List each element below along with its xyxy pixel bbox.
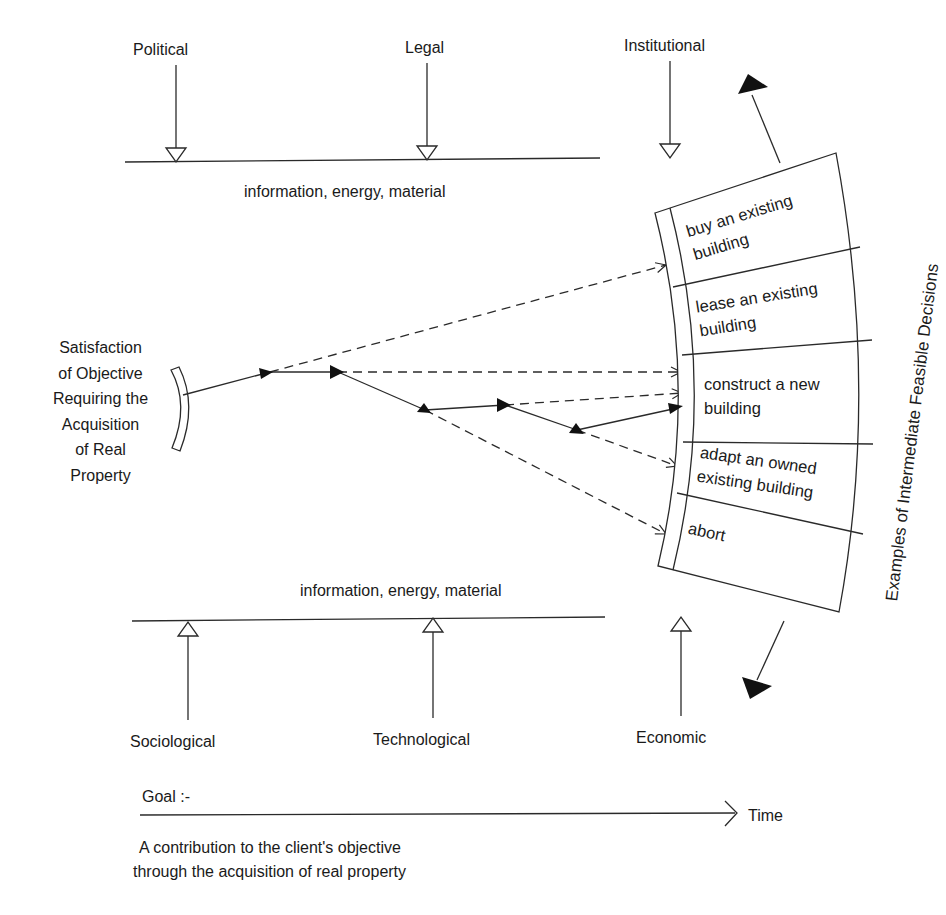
technological-arrow (423, 618, 443, 718)
goal-text-1: A contribution to the client's objective (139, 838, 401, 857)
origin-line: Requiring the (38, 386, 163, 412)
option-paths (270, 265, 682, 534)
institutional-arrow (660, 61, 680, 158)
up-arrow (752, 95, 780, 163)
option-text: construct a new (704, 372, 820, 396)
up-arrow-head-icon (738, 74, 768, 94)
option-text: building (704, 396, 820, 420)
legal-arrow (417, 63, 437, 160)
time-label: Time (748, 806, 783, 825)
label-legal: Legal (405, 38, 444, 57)
bottom-baseline (132, 617, 605, 621)
node-1-icon (259, 368, 273, 379)
node-4-icon (497, 398, 511, 412)
economic-arrow (671, 617, 691, 716)
down-arrow-head-icon (742, 677, 772, 699)
node-2-icon (330, 365, 344, 379)
time-axis (140, 801, 737, 826)
decision-path (183, 372, 682, 430)
origin-label: Satisfaction of Objective Requiring the … (38, 335, 163, 488)
top-flow-label: information, energy, material (244, 182, 446, 201)
label-sociological: Sociological (130, 732, 215, 751)
bottom-flow-label: information, energy, material (300, 581, 502, 600)
down-arrow (757, 621, 784, 680)
label-technological: Technological (373, 730, 470, 749)
origin-line: of Objective (38, 361, 163, 387)
goal-text-2: through the acquisition of real property (133, 862, 406, 881)
origin-line: Property (38, 463, 163, 489)
origin-line: Satisfaction (38, 335, 163, 361)
origin-line: Acquisition (38, 412, 163, 438)
origin-line: of Real (38, 437, 163, 463)
goal-label: Goal :- (142, 787, 190, 806)
label-political: Political (133, 40, 188, 59)
sociological-arrow (178, 622, 198, 720)
label-institutional: Institutional (624, 36, 705, 55)
option-construct: construct a new building (704, 372, 820, 420)
political-arrow (166, 65, 186, 162)
top-baseline (125, 158, 600, 162)
origin-bracket-icon (171, 367, 189, 451)
label-economic: Economic (636, 728, 706, 747)
